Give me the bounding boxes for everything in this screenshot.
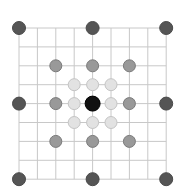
outer-point-marker — [160, 22, 173, 35]
outer-point-marker — [13, 97, 26, 110]
middle-point-marker — [123, 60, 135, 72]
middle-point-marker — [123, 98, 135, 110]
inner-point-marker — [87, 117, 99, 129]
inner-point-marker — [105, 98, 117, 110]
grid-board-diagram — [0, 0, 184, 196]
middle-point-marker — [50, 135, 62, 147]
outer-point-marker — [13, 22, 26, 35]
outer-point-marker — [86, 22, 99, 35]
inner-point-marker — [105, 117, 117, 129]
middle-point-marker — [87, 135, 99, 147]
inner-point-marker — [68, 117, 80, 129]
inner-point-marker — [68, 79, 80, 91]
middle-point-marker — [50, 60, 62, 72]
inner-point-marker — [105, 79, 117, 91]
outer-point-marker — [160, 173, 173, 186]
inner-point-marker — [68, 98, 80, 110]
outer-point-marker — [86, 173, 99, 186]
middle-point-marker — [87, 60, 99, 72]
middle-point-marker — [50, 98, 62, 110]
outer-point-marker — [13, 173, 26, 186]
middle-point-marker — [123, 135, 135, 147]
outer-point-marker — [160, 97, 173, 110]
center-point-marker — [85, 96, 100, 111]
inner-point-marker — [87, 79, 99, 91]
